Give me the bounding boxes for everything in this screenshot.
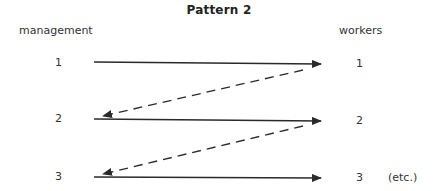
solid-arrow-level-3 [94, 177, 321, 178]
dashed-arrow-2-to-3 [103, 126, 303, 174]
solid-arrow-level-2 [94, 119, 321, 121]
diagram-canvas: Pattern 2 management workers 1 2 3 1 2 3… [0, 0, 438, 191]
dashed-arrow-1-to-2 [103, 70, 303, 116]
arrows-layer [0, 0, 438, 191]
solid-arrow-level-1 [94, 62, 321, 64]
